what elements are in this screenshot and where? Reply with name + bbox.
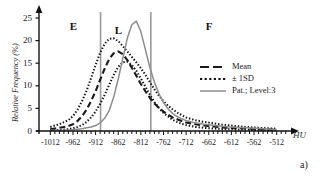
legend-swatch-solid xyxy=(200,87,226,95)
region-label-e: E xyxy=(70,21,77,32)
series-line-1sd xyxy=(50,38,276,128)
y-tick-label: 5 xyxy=(14,104,32,113)
y-tick-label: 0 xyxy=(14,127,32,136)
y-tick-label: 25 xyxy=(14,14,32,23)
legend-label: Pat.; Level:3 xyxy=(232,86,275,95)
region-label-l: L xyxy=(115,25,122,36)
y-tick-label: 10 xyxy=(14,81,32,90)
legend-swatch-dotted xyxy=(200,75,226,83)
legend-label: Mean xyxy=(232,62,251,71)
figure-panel: Relative Frequency (%) HU 0510152025 -10… xyxy=(0,0,323,182)
legend-swatch-dashed xyxy=(200,63,226,71)
y-tick-label: 20 xyxy=(14,36,32,45)
y-axis-arrow-icon xyxy=(36,5,43,13)
legend-label: ± 1SD xyxy=(232,74,254,83)
panel-label: a) xyxy=(300,160,308,170)
region-label-f: F xyxy=(206,21,213,32)
x-axis-title: HU xyxy=(293,131,306,140)
x-tick-label: -512 xyxy=(262,139,292,147)
y-tick-label: 15 xyxy=(14,59,32,68)
